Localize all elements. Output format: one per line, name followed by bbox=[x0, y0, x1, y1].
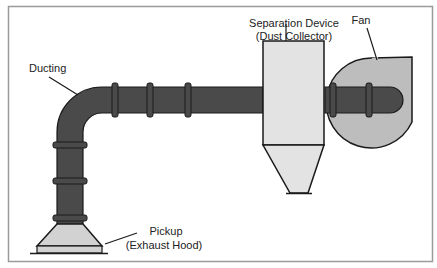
duct-flange bbox=[147, 83, 153, 117]
duct-flange bbox=[366, 83, 372, 117]
dust-collection-diagram: Ducting Separation Device (Dust Collecto… bbox=[0, 0, 437, 268]
duct-flange bbox=[53, 142, 87, 148]
separation-device-label: Separation Device bbox=[249, 17, 339, 29]
duct-flange bbox=[53, 215, 87, 221]
duct-flange bbox=[53, 178, 87, 184]
pickup-label: Pickup bbox=[149, 225, 182, 237]
duct-flange bbox=[330, 83, 336, 117]
ducting-label: Ducting bbox=[29, 62, 66, 74]
collector-body bbox=[263, 41, 324, 145]
hood-base bbox=[37, 246, 102, 253]
fan-label: Fan bbox=[352, 14, 371, 26]
exhaust-hood-label: (Exhaust Hood) bbox=[126, 239, 202, 251]
dust-collector-label: (Dust Collector) bbox=[256, 30, 332, 42]
duct-flange bbox=[185, 83, 191, 117]
duct-flange bbox=[112, 83, 118, 117]
